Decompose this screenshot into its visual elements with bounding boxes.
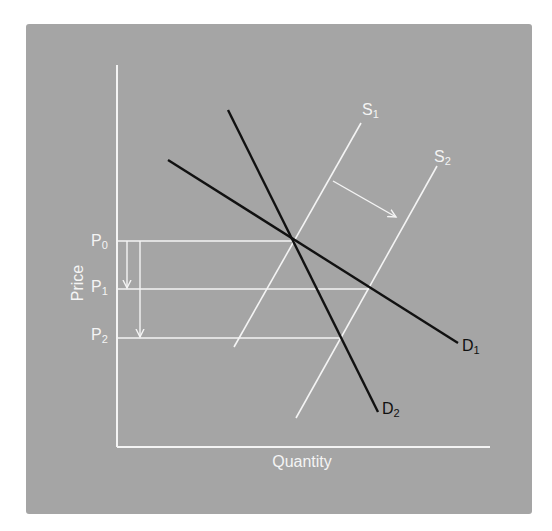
price-label-p1: P1 [91, 279, 108, 297]
y-axis-label: Price [69, 261, 87, 305]
curve-label-d2: D2 [382, 401, 400, 419]
curve-label-s2: S2 [434, 149, 451, 167]
curve-label-d1: D1 [462, 338, 480, 356]
supply-shift-arrow [333, 181, 396, 217]
curve-label-s1: S1 [362, 102, 379, 120]
price-label-p2: P2 [91, 327, 108, 345]
demand-curve-d1 [168, 160, 458, 343]
x-axis-label: Quantity [262, 453, 342, 471]
price-label-p0: P0 [91, 233, 108, 251]
demand-curve-d2 [228, 110, 378, 412]
supply-curve-s1 [234, 123, 361, 347]
